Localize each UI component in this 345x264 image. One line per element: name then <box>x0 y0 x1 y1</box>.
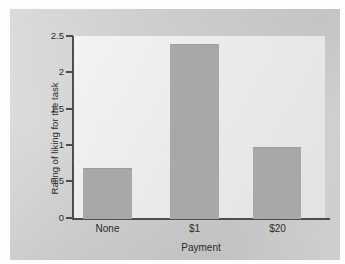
x-tick-label-none: None <box>78 223 137 235</box>
y-tick-mark <box>66 144 73 146</box>
bar-dollar-20 <box>253 147 301 219</box>
x-tick-label-dollar-1: $1 <box>165 223 224 235</box>
x-axis-title: Payment <box>72 242 330 253</box>
y-tick-mark <box>66 108 73 110</box>
y-tick-mark <box>66 217 73 219</box>
figure-panel: 0 0.5 1 1.5 2 2.5 None $1 $20 Payment Ra… <box>10 9 340 260</box>
x-tick-label-dollar-20: $20 <box>248 223 307 235</box>
y-tick-mark <box>66 71 73 73</box>
y-axis-title-holder: Rating of liking for the task <box>32 29 48 219</box>
chart-screenshot: 0 0.5 1 1.5 2 2.5 None $1 $20 Payment Ra… <box>0 0 345 264</box>
bar-dollar-1 <box>170 44 219 219</box>
y-tick-mark <box>66 35 73 37</box>
y-axis-line <box>72 36 74 219</box>
y-axis-title: Rating of liking for the task <box>49 59 60 219</box>
bar-none <box>83 168 132 219</box>
y-tick-mark <box>66 180 73 182</box>
